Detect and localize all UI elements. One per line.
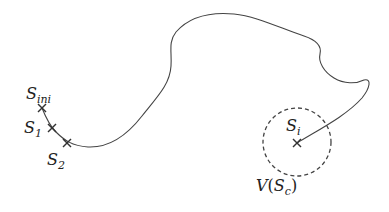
cross-marker-s1 [48,124,56,132]
label-si: Si [286,118,301,137]
label-neighborhood: V(Sc) [256,178,297,197]
trajectory-curve [42,14,369,148]
label-s-ini: Sini [26,86,51,105]
label-s1: S1 [24,120,42,139]
diagram-canvas [0,0,389,212]
cross-marker-si [293,139,301,147]
label-s2: S2 [47,152,65,171]
